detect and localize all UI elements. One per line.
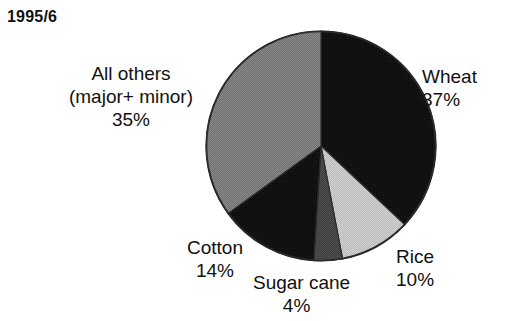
slice-label-wheat: Wheat 37% [422, 65, 477, 111]
slice-label-sugar-cane-name: Sugar cane [253, 271, 350, 294]
pie-chart-figure: 1995/6 [0, 0, 509, 321]
slice-label-all-others-value: 35% [41, 108, 221, 131]
slice-label-cotton-value: 14% [172, 259, 258, 282]
slice-label-all-others: All others (major+ minor) 35% [41, 62, 221, 131]
slice-label-wheat-value: 37% [422, 88, 477, 111]
chart-title: 1995/6 [7, 8, 57, 26]
slice-label-wheat-name: Wheat [422, 65, 477, 88]
slice-label-cotton: Cotton 14% [172, 236, 258, 282]
slice-label-rice: Rice 10% [396, 245, 434, 291]
slice-label-all-others-sub: (major+ minor) [41, 85, 221, 108]
slice-label-cotton-name: Cotton [172, 236, 258, 259]
pie-chart-graphic [205, 30, 437, 262]
slice-label-sugar-cane: Sugar cane 4% [253, 271, 350, 317]
slice-label-sugar-cane-value: 4% [253, 294, 350, 317]
pie-svg [205, 30, 437, 262]
slice-label-rice-value: 10% [396, 268, 434, 291]
slice-label-all-others-name: All others [41, 62, 221, 85]
slice-label-rice-name: Rice [396, 245, 434, 268]
